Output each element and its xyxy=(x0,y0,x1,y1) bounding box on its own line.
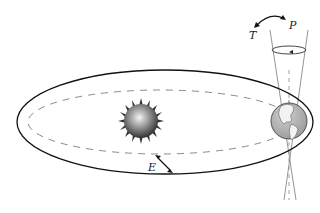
eccentricity-arrow xyxy=(155,155,173,173)
tilt-precession-arrow xyxy=(254,15,286,28)
precession-label: P xyxy=(289,20,296,31)
earth-icon xyxy=(271,100,307,139)
sun-icon xyxy=(118,98,164,144)
precession-direction-arrowhead xyxy=(289,50,293,54)
diagram-canvas xyxy=(0,0,320,213)
elliptical-orbit xyxy=(17,70,313,174)
precession-circle xyxy=(272,46,306,54)
eccentricity-label: E xyxy=(148,162,156,173)
tilt-label: T xyxy=(249,30,256,41)
